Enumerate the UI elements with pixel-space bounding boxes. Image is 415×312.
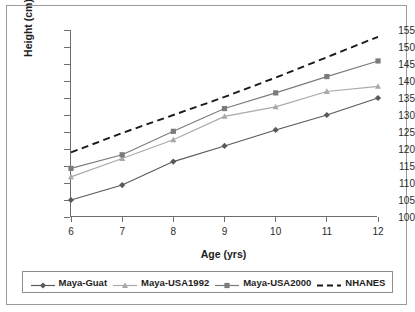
x-tick-mark	[326, 217, 327, 222]
x-tick-label: 9	[205, 226, 245, 237]
data-point	[120, 152, 125, 157]
data-point	[324, 112, 330, 118]
legend-marker-square-icon	[214, 277, 240, 288]
x-tick-label: 8	[153, 226, 193, 237]
x-tick-mark	[378, 217, 379, 222]
data-point	[375, 58, 380, 63]
legend-label: Maya-Guat	[59, 277, 108, 288]
x-tick-label: 7	[102, 226, 142, 237]
chart-legend: Maya-GuatMaya-USA1992Maya-USA2000NHANES	[22, 271, 393, 293]
legend-marker-triangle-icon	[112, 277, 138, 288]
legend-item-maya-usa2000[interactable]: Maya-USA2000	[214, 277, 311, 288]
x-tick-mark	[224, 217, 225, 222]
series-nhanes	[71, 37, 378, 153]
legend-label: Maya-USA1992	[141, 277, 209, 288]
y-axis-title: Height (cm)	[22, 0, 34, 98]
series-line	[71, 37, 378, 153]
chart-figure: Height (cm) 1001051101151201251301351401…	[0, 0, 415, 312]
x-tick-mark	[71, 217, 72, 222]
data-point	[68, 166, 73, 171]
x-tick-label: 11	[307, 226, 347, 237]
x-tick-label: 6	[51, 226, 91, 237]
legend-item-nhanes[interactable]: NHANES	[316, 277, 385, 288]
data-point	[171, 129, 176, 134]
data-point	[324, 74, 329, 79]
x-tick-mark	[173, 217, 174, 222]
data-point	[68, 197, 74, 203]
data-point	[222, 106, 227, 111]
legend-item-maya-usa1992[interactable]: Maya-USA1992	[112, 277, 209, 288]
data-point	[221, 143, 227, 149]
data-point	[273, 127, 279, 133]
x-axis-title: Age (yrs)	[70, 248, 377, 260]
data-point	[273, 90, 278, 95]
legend-label: Maya-USA2000	[243, 277, 311, 288]
data-point	[119, 182, 125, 188]
legend-label: NHANES	[345, 277, 385, 288]
plot-area: 6789101112	[70, 30, 377, 217]
x-tick-mark	[122, 217, 123, 222]
legend-marker-diamond-icon	[30, 277, 56, 288]
legend-marker-none-icon	[316, 277, 342, 288]
legend-item-maya-guat[interactable]: Maya-Guat	[30, 277, 108, 288]
x-tick-label: 10	[256, 226, 296, 237]
x-tick-label: 12	[358, 226, 398, 237]
series-line	[71, 86, 378, 176]
data-point	[170, 158, 176, 164]
plot-wrapper: Height (cm) 1001051101151201251301351401…	[0, 0, 415, 312]
x-tick-mark	[275, 217, 276, 222]
series-layer	[71, 30, 378, 217]
